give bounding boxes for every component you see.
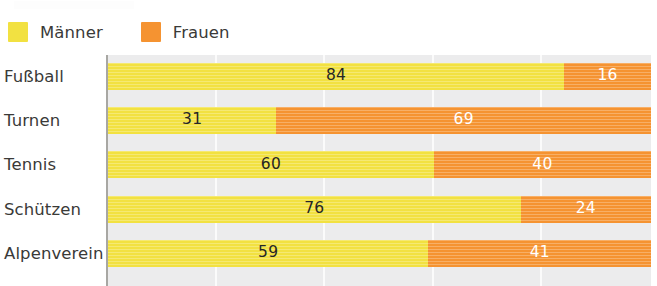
bar-row: 6040	[108, 151, 651, 178]
bar-value-frauen: 24	[576, 201, 596, 217]
category-axis-labels: FußballTurnenTennisSchützenAlpenverein	[0, 55, 104, 286]
bar-value-maenner: 76	[304, 201, 324, 217]
bar-segment-maenner[interactable]: 60	[108, 151, 434, 178]
category-label-2: Turnen	[4, 107, 60, 134]
category-label-1: Fußball	[4, 63, 64, 90]
category-label-4: Schützen	[4, 196, 81, 223]
bar-value-maenner: 60	[261, 157, 281, 173]
bar-value-maenner: 84	[326, 68, 346, 84]
legend-item-frauen[interactable]: Frauen	[141, 22, 230, 42]
bar-segment-frauen[interactable]: 69	[276, 107, 651, 134]
bar-rows: 84163169604076245941	[108, 55, 651, 286]
bar-segment-frauen[interactable]: 16	[564, 63, 651, 90]
legend-label-frauen: Frauen	[173, 23, 230, 42]
bar-segment-frauen[interactable]: 24	[521, 196, 651, 223]
legend-item-maenner[interactable]: Männer	[8, 22, 103, 42]
chart-legend: Männer Frauen	[8, 19, 230, 45]
bar-value-frauen: 69	[454, 112, 474, 128]
bar-value-frauen: 41	[530, 245, 550, 261]
legend-swatch-male-icon	[8, 22, 28, 42]
bar-row: 5941	[108, 240, 651, 267]
bar-segment-frauen[interactable]: 41	[428, 240, 651, 267]
bar-value-maenner: 31	[182, 112, 202, 128]
legend-label-maenner: Männer	[40, 23, 103, 42]
bar-value-frauen: 16	[598, 68, 618, 84]
bar-segment-maenner[interactable]: 31	[108, 107, 276, 134]
bar-segment-frauen[interactable]: 40	[434, 151, 651, 178]
category-label-5: Alpenverein	[4, 240, 104, 267]
scan-artifact	[14, 1, 134, 9]
bar-row: 7624	[108, 196, 651, 223]
bar-row: 3169	[108, 107, 651, 134]
stacked-bar-chart: Männer Frauen FußballTurnenTennisSchütze…	[0, 0, 657, 286]
bar-segment-maenner[interactable]: 76	[108, 196, 521, 223]
category-label-3: Tennis	[4, 151, 56, 178]
bar-value-frauen: 40	[532, 157, 552, 173]
bar-segment-maenner[interactable]: 84	[108, 63, 564, 90]
bar-segment-maenner[interactable]: 59	[108, 240, 428, 267]
legend-swatch-female-icon	[141, 22, 161, 42]
bar-row: 8416	[108, 63, 651, 90]
bar-value-maenner: 59	[258, 245, 278, 261]
